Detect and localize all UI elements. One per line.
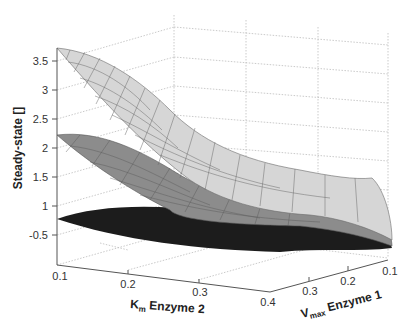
svg-text:2: 2 (42, 142, 48, 154)
svg-text:3.5: 3.5 (33, 55, 48, 67)
svg-text:0.2: 0.2 (340, 275, 355, 287)
svg-text:0.1: 0.1 (382, 265, 397, 277)
z-axis-label: Steady-state [] (11, 107, 25, 190)
svg-text:0.2: 0.2 (120, 278, 135, 290)
svg-text:2.5: 2.5 (33, 113, 48, 125)
svg-text:0.3: 0.3 (192, 286, 207, 298)
x-axis-label: Km Enzyme 2 (130, 297, 206, 318)
svg-text:0.1: 0.1 (52, 270, 67, 282)
svg-text:0.3: 0.3 (302, 285, 317, 297)
z-tick-labels: 3.5 3 2.5 2 1.5 1 -0.5 (29, 55, 48, 241)
svg-text:-0.5: -0.5 (29, 229, 48, 241)
svg-text:0.4: 0.4 (260, 296, 275, 308)
svg-text:1: 1 (42, 200, 48, 212)
surface-plot: 3.5 3 2.5 2 1.5 1 -0.5 0.1 0.2 0.3 0.4 0… (0, 0, 409, 326)
svg-text:1.5: 1.5 (33, 171, 48, 183)
svg-text:3: 3 (42, 84, 48, 96)
